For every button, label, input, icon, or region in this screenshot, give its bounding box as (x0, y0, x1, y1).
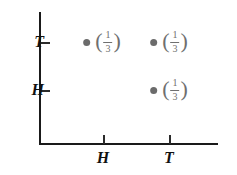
fraction-denominator: 3 (171, 44, 180, 55)
y-axis-line (39, 12, 41, 145)
fraction-denominator: 3 (104, 44, 113, 55)
right-paren: ) (181, 30, 188, 52)
y-axis-label-h: H (32, 82, 44, 98)
y-axis-label-t: T (34, 34, 44, 50)
data-point-probability-label: ( 1 3 ) (162, 30, 188, 54)
x-axis-label-t: T (164, 150, 174, 166)
data-point-h-t: ( 1 3 ) (83, 30, 121, 54)
data-point-t-h: ( 1 3 ) (150, 78, 188, 102)
data-point-dot (150, 39, 157, 46)
fraction-numerator: 1 (171, 30, 180, 41)
fraction-one-third: 1 3 (104, 30, 113, 54)
right-paren: ) (181, 78, 188, 100)
data-point-dot (150, 87, 157, 94)
fraction-one-third: 1 3 (171, 30, 180, 54)
data-point-probability-label: ( 1 3 ) (95, 30, 121, 54)
x-axis-line (39, 143, 218, 145)
scatter-plot-figure: T H H T ( 1 3 ) ( 1 3 ) (0, 0, 237, 175)
data-point-probability-label: ( 1 3 ) (162, 78, 188, 102)
x-axis-label-h: H (97, 150, 109, 166)
fraction-numerator: 1 (104, 30, 113, 41)
left-paren: ( (95, 30, 102, 52)
x-axis-tick-h (103, 135, 105, 144)
right-paren: ) (114, 30, 121, 52)
left-paren: ( (162, 78, 169, 100)
data-point-t-t: ( 1 3 ) (150, 30, 188, 54)
fraction-denominator: 3 (171, 92, 180, 103)
fraction-one-third: 1 3 (171, 78, 180, 102)
left-paren: ( (162, 30, 169, 52)
x-axis-tick-t (169, 135, 171, 144)
data-point-dot (83, 39, 90, 46)
fraction-numerator: 1 (171, 78, 180, 89)
